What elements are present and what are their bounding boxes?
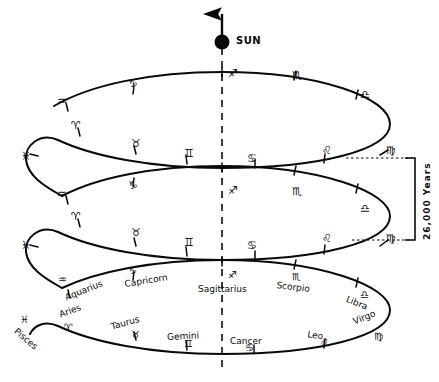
- zodiac-glyph-cancer: ♋: [247, 240, 257, 251]
- zodiac-glyph-sagittarius: ♐: [228, 185, 238, 196]
- sun-marker: [215, 35, 230, 50]
- zodiac-glyph-gemini: ♊: [184, 237, 194, 248]
- zodiac-glyph-taurus: ♉: [131, 330, 140, 340]
- zodiac-glyph-scorpio: ♏: [292, 272, 301, 282]
- zodiac-glyph-aquarius: ♒: [58, 275, 67, 285]
- zodiac-glyph-virgo: ♍: [386, 145, 396, 156]
- zodiac-glyph-aquarius: ♒: [57, 96, 67, 107]
- zodiac-glyph-aries: ♈: [71, 120, 81, 131]
- zodiac-glyph-scorpio: ♏: [292, 70, 302, 81]
- zodiac-name-sagittarius: Sagittarius: [198, 285, 247, 294]
- ring-middle-ticks: [30, 163, 388, 259]
- sun-label: SUN: [236, 36, 261, 46]
- zodiac-glyph-aries: ♈: [71, 211, 81, 222]
- zodiac-glyph-taurus: ♉: [131, 138, 141, 149]
- zodiac-glyph-gemini: ♊: [184, 148, 194, 159]
- zodiac-glyph-sagittarius: ♐: [228, 270, 237, 280]
- ring-bottom: [30, 260, 390, 354]
- ring-top: [26, 72, 390, 196]
- zodiac-name-gemini: Gemini: [167, 331, 199, 342]
- zodiac-glyph-virgo: ♍: [386, 233, 396, 244]
- zodiac-glyph-virgo: ♍: [374, 332, 383, 342]
- zodiac-glyph-libra: ♎: [360, 203, 370, 214]
- zodiac-glyph-aquarius: ♒: [57, 189, 67, 200]
- ring-top-ticks: [30, 68, 388, 168]
- zodiac-glyph-pisces: ♓: [21, 240, 31, 251]
- zodiac-glyph-cancer: ♋: [247, 153, 257, 164]
- zodiac-glyph-capricorn: ♑: [128, 266, 137, 276]
- zodiac-glyph-pisces: ♓: [20, 315, 29, 325]
- zodiac-glyph-sagittarius: ♐: [228, 68, 238, 79]
- period-bracket: [346, 158, 415, 240]
- zodiac-glyph-libra: ♎: [360, 89, 370, 100]
- zodiac-glyph-leo: ♌: [322, 233, 332, 244]
- zodiac-glyph-pisces: ♓: [21, 151, 31, 162]
- zodiac-glyph-capricorn: ♑: [128, 180, 138, 191]
- zodiac-glyph-taurus: ♉: [131, 227, 141, 238]
- zodiac-glyph-aries: ♈: [64, 323, 73, 333]
- zodiac-glyph-scorpio: ♏: [292, 186, 302, 197]
- zodiac-glyph-leo: ♌: [322, 145, 332, 156]
- zodiac-glyph-capricorn: ♑: [128, 78, 138, 89]
- period-label: 26,000 Years: [423, 162, 432, 240]
- zodiac-name-cancer: Cancer: [230, 337, 262, 346]
- precession-diagram: SUN 26,000 Years ♐♏♎♍♌♋♊♉♈♒♑♓♐♏♎♍♌♋♊♉♈♒♑…: [0, 0, 439, 382]
